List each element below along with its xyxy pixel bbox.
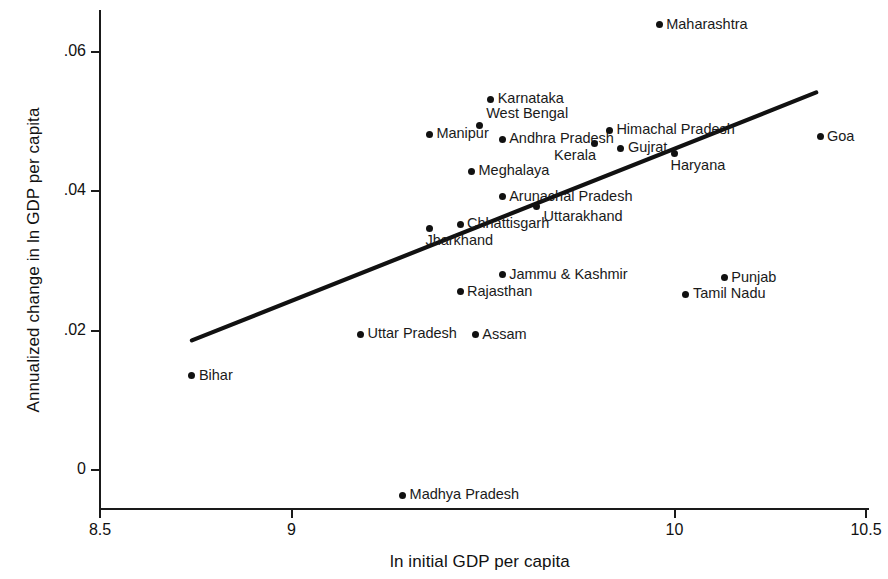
data-point (188, 372, 195, 379)
data-point-label: Gujrat (628, 140, 668, 155)
data-point (606, 127, 613, 134)
data-point-label: Maharashtra (666, 17, 747, 32)
data-point-label: Jammu & Kashmir (509, 267, 627, 282)
data-point (426, 131, 433, 138)
data-point-label: Kerala (554, 148, 596, 163)
data-point (487, 96, 494, 103)
data-point-label: Manipur (436, 126, 488, 141)
data-point (721, 274, 728, 281)
data-point-label: Arunachal Pradesh (509, 189, 632, 204)
data-point (656, 21, 663, 28)
data-point-label: Haryana (671, 158, 726, 173)
data-point (533, 203, 540, 210)
data-point (617, 145, 624, 152)
data-point (817, 133, 824, 140)
data-point (499, 193, 506, 200)
data-point (682, 291, 689, 298)
data-point-label: Uttar Pradesh (367, 326, 456, 341)
data-point (457, 288, 464, 295)
data-point (472, 331, 479, 338)
data-point-label: Tamil Nadu (693, 286, 766, 301)
data-point-label: Himachal Pradesh (616, 122, 734, 137)
data-point (426, 225, 433, 232)
data-point (468, 168, 475, 175)
scatter-plot-figure: Annualized change in ln GDP per capita l… (0, 0, 888, 579)
data-point-label: Goa (827, 129, 854, 144)
data-points-layer: MaharashtraKarnatakaWest BengalManipurAn… (0, 0, 888, 579)
data-point (457, 221, 464, 228)
data-point-label: Madhya Pradesh (410, 487, 520, 502)
data-point-label: Chhattisgarh (467, 216, 549, 231)
data-point (357, 331, 364, 338)
data-point-label: Bihar (199, 368, 233, 383)
data-point-label: Rajasthan (467, 284, 532, 299)
data-point (671, 150, 678, 157)
data-point-label: Meghalaya (479, 163, 550, 178)
data-point (499, 271, 506, 278)
data-point-label: Assam (482, 327, 526, 342)
data-point-label: West Bengal (486, 106, 568, 121)
data-point-label: Uttarakhand (544, 209, 623, 224)
data-point-label: Karnataka (498, 91, 564, 106)
data-point (399, 492, 406, 499)
data-point-label: Punjab (731, 270, 776, 285)
data-point (499, 136, 506, 143)
data-point-label: Andhra Pradesh (509, 131, 614, 146)
data-point-label: Jharkhand (425, 233, 493, 248)
